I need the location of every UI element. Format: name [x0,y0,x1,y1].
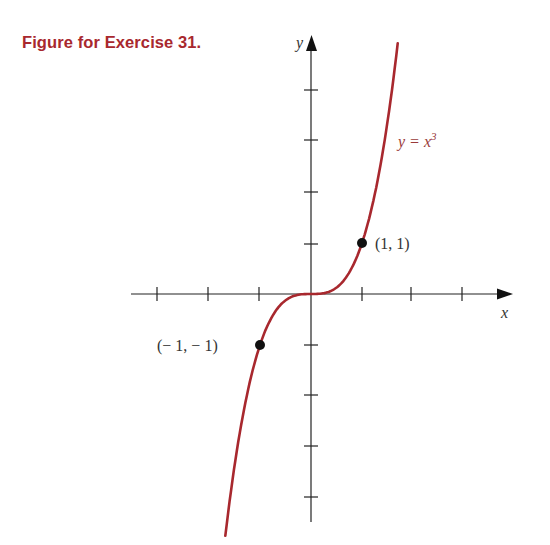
y-axis-label: y [294,34,304,52]
point-1-1 [357,238,367,248]
point-neg1-neg1 [255,340,265,350]
x-axis-label: x [500,304,508,321]
y-axis-arrow-icon [306,35,317,51]
cubic-graph: (1, 1) (− 1, − 1) y x y = x3 [0,0,550,545]
point-label-neg1-neg1: (− 1, − 1) [157,337,218,355]
y-axis [304,35,318,522]
point-label-1-1: (1, 1) [375,235,410,253]
x-axis-arrow-icon [497,289,513,300]
curve-label: y = x3 [396,130,437,151]
